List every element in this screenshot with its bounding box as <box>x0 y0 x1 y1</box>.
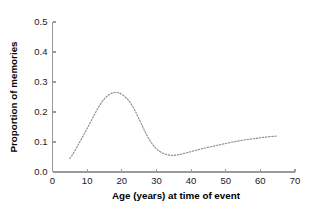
y-tick-label: 0.1 <box>34 136 47 147</box>
x-tick-label: 40 <box>186 175 197 186</box>
y-tick-label: 0.4 <box>34 46 47 57</box>
y-axis-title: Proportion of memories <box>8 41 19 153</box>
line-chart: 0.00.10.20.30.40.5 010203040506070 Propo… <box>0 0 311 207</box>
x-tick-label: 10 <box>82 175 93 186</box>
x-tick-label: 50 <box>220 175 231 186</box>
x-tick-label: 60 <box>255 175 266 186</box>
y-tick-label: 0.3 <box>34 76 47 87</box>
memories-curve <box>70 92 278 158</box>
chart-figure: 0.00.10.20.30.40.5 010203040506070 Propo… <box>0 0 311 207</box>
y-tick-label: 0.5 <box>34 16 47 27</box>
y-tick-label: 0.0 <box>34 166 47 177</box>
axes <box>53 22 296 172</box>
x-tick-label: 0 <box>50 175 55 186</box>
x-tick-label: 30 <box>151 175 162 186</box>
y-tick-label: 0.2 <box>34 106 47 117</box>
x-tick-label: 70 <box>290 175 301 186</box>
x-axis-title: Age (years) at time of event <box>112 190 241 201</box>
x-tick-label: 20 <box>116 175 127 186</box>
x-axis-ticks: 010203040506070 <box>50 169 300 187</box>
data-series-group <box>70 92 278 158</box>
